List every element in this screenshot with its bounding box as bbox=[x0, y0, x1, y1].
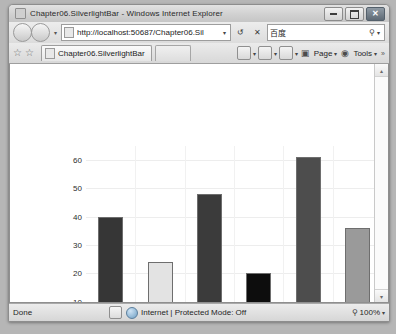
vertical-gridline bbox=[333, 146, 334, 302]
page-menu-label[interactable]: Page bbox=[314, 49, 333, 58]
scrollbar-track[interactable] bbox=[375, 77, 388, 289]
search-value: 百度 bbox=[270, 27, 369, 38]
close-button[interactable]: ✕ bbox=[366, 7, 385, 21]
bar-may bbox=[296, 157, 321, 302]
silverlight-canvas: 0102030405060 JanFebMarAprMayJun bbox=[10, 64, 374, 302]
y-tick-label: 40 bbox=[56, 212, 82, 221]
protected-mode-icon bbox=[109, 306, 122, 319]
stop-button[interactable]: ✕ bbox=[250, 25, 265, 40]
y-tick-label: 50 bbox=[56, 184, 82, 193]
gridline bbox=[86, 160, 374, 161]
maximize-icon bbox=[350, 10, 359, 19]
vertical-gridline bbox=[234, 146, 235, 302]
bar-mar bbox=[197, 194, 222, 302]
add-to-favorites-icon[interactable]: ☆ bbox=[25, 48, 34, 58]
bar-chart: 0102030405060 JanFebMarAprMayJun bbox=[10, 64, 374, 302]
zoom-control[interactable]: ⚲ 100% ▾ bbox=[352, 308, 385, 317]
y-tick-label: 60 bbox=[56, 156, 82, 165]
ie-logo-icon bbox=[15, 8, 26, 19]
toolbar-overflow-icon[interactable]: » bbox=[381, 50, 385, 57]
security-zone-text: Internet | Protected Mode: Off bbox=[141, 308, 246, 317]
address-input[interactable]: http://localhost:50687/Chapter06.Sil ▾ bbox=[61, 24, 231, 41]
scroll-up-button[interactable]: ▴ bbox=[375, 64, 388, 77]
zoom-icon: ⚲ bbox=[352, 308, 358, 317]
bar-jun bbox=[345, 228, 370, 302]
new-tab-button[interactable] bbox=[155, 45, 191, 61]
vertical-gridline bbox=[283, 146, 284, 302]
favorites-center-icon[interactable]: ☆ bbox=[13, 48, 22, 58]
y-axis: 0102030405060 bbox=[54, 146, 82, 302]
y-tick-label: 30 bbox=[56, 241, 82, 250]
recent-pages-caret[interactable]: ▾ bbox=[52, 29, 59, 36]
vertical-gridline bbox=[135, 146, 136, 302]
bar-feb bbox=[148, 262, 173, 302]
y-tick-label: 10 bbox=[56, 297, 82, 302]
vertical-gridline bbox=[185, 146, 186, 302]
tools-menu-label[interactable]: Tools bbox=[353, 49, 372, 58]
title-bar: Chapter06.SilverlightBar - Windows Inter… bbox=[9, 5, 389, 22]
gridline bbox=[86, 188, 374, 189]
feeds-caret-icon[interactable]: ▾ bbox=[274, 50, 277, 57]
minimize-button[interactable] bbox=[324, 7, 343, 21]
scroll-down-button[interactable]: ▾ bbox=[375, 289, 388, 302]
feeds-icon[interactable] bbox=[258, 46, 272, 60]
search-provider-caret[interactable]: ▾ bbox=[375, 29, 382, 36]
command-bar: ☆ ☆ Chapter06.SilverlightBar ▾ ▾ ▾ ▣ Pag… bbox=[9, 43, 389, 64]
page-icon bbox=[64, 27, 74, 38]
minimize-icon bbox=[330, 13, 337, 15]
tab-page-icon bbox=[45, 48, 55, 59]
gridline bbox=[86, 245, 374, 246]
maximize-button[interactable] bbox=[345, 7, 364, 21]
status-text: Done bbox=[13, 308, 109, 317]
close-icon: ✕ bbox=[372, 10, 379, 18]
internet-zone-icon bbox=[126, 307, 138, 319]
address-dropdown-caret[interactable]: ▾ bbox=[221, 29, 228, 36]
address-value: http://localhost:50687/Chapter06.Sil bbox=[77, 28, 221, 37]
page-menu-icon[interactable]: ▣ bbox=[300, 47, 312, 59]
page-menu-caret-icon[interactable]: ▾ bbox=[334, 50, 337, 57]
home-icon[interactable] bbox=[237, 46, 251, 60]
screenshot-root: Chapter06.SilverlightBar - Windows Inter… bbox=[0, 0, 396, 334]
gridline bbox=[86, 273, 374, 274]
back-button[interactable] bbox=[13, 23, 32, 42]
zoom-level: 100% bbox=[360, 308, 380, 317]
bar-apr bbox=[246, 273, 271, 302]
address-bar: ▾ http://localhost:50687/Chapter06.Sil ▾… bbox=[9, 22, 389, 43]
plot-area bbox=[86, 146, 374, 302]
zoom-caret-icon[interactable]: ▾ bbox=[382, 309, 385, 316]
tools-menu-caret-icon[interactable]: ▾ bbox=[374, 50, 377, 57]
command-buttons: ▾ ▾ ▾ ▣ Page ▾ ◉ Tools ▾ » bbox=[237, 46, 385, 60]
gridline bbox=[86, 217, 374, 218]
tab-label: Chapter06.SilverlightBar bbox=[58, 49, 145, 58]
vertical-scrollbar[interactable]: ▴ ▾ bbox=[374, 64, 388, 302]
caption-buttons: ✕ bbox=[324, 7, 385, 21]
refresh-button[interactable]: ↺ bbox=[233, 25, 248, 40]
print-icon[interactable] bbox=[279, 46, 293, 60]
print-caret-icon[interactable]: ▾ bbox=[295, 50, 298, 57]
tools-menu-icon[interactable]: ◉ bbox=[339, 47, 351, 59]
window-title: Chapter06.SilverlightBar - Windows Inter… bbox=[30, 9, 223, 18]
search-input[interactable]: 百度 ⚲ ▾ bbox=[267, 24, 385, 41]
home-caret-icon[interactable]: ▾ bbox=[253, 50, 256, 57]
y-tick-label: 20 bbox=[56, 269, 82, 278]
bar-jan bbox=[98, 217, 123, 302]
status-bar: Done Internet | Protected Mode: Off ⚲ 10… bbox=[9, 303, 389, 321]
browser-window: Chapter06.SilverlightBar - Windows Inter… bbox=[8, 4, 390, 322]
page-content: 0102030405060 JanFebMarAprMayJun ▴ ▾ bbox=[9, 64, 389, 303]
browser-tab[interactable]: Chapter06.SilverlightBar bbox=[41, 45, 152, 61]
forward-button[interactable] bbox=[31, 23, 50, 42]
